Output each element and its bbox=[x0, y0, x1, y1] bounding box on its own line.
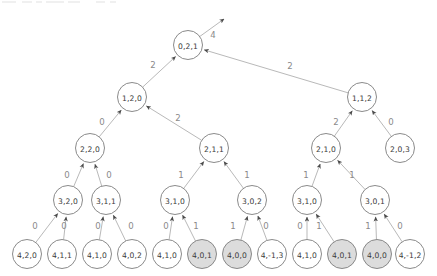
graph-edge bbox=[143, 57, 176, 88]
graph-edge bbox=[183, 215, 196, 241]
node-layer bbox=[13, 31, 425, 269]
graph-edge bbox=[334, 111, 352, 136]
graph-node[interactable] bbox=[200, 134, 229, 163]
graph-edge bbox=[74, 164, 84, 187]
graph-edge bbox=[372, 111, 391, 137]
graph-edge bbox=[64, 217, 67, 240]
graph-node[interactable] bbox=[161, 186, 190, 215]
graph-edge bbox=[36, 214, 58, 243]
graph-node[interactable] bbox=[174, 31, 203, 60]
graph-edge bbox=[376, 217, 377, 240]
graph-edge bbox=[258, 216, 267, 240]
graph-svg bbox=[0, 0, 437, 276]
graph-edge bbox=[99, 217, 103, 240]
figure-canvas: 42202200011110000011001100,2,11,2,01,1,2… bbox=[0, 0, 437, 276]
graph-node-shaded[interactable] bbox=[328, 240, 357, 269]
graph-edge bbox=[146, 106, 201, 140]
graph-node[interactable] bbox=[293, 186, 322, 215]
graph-node[interactable] bbox=[396, 240, 425, 269]
graph-node[interactable] bbox=[48, 240, 77, 269]
graph-node[interactable] bbox=[238, 186, 267, 215]
graph-edge bbox=[312, 164, 320, 186]
graph-edge bbox=[224, 162, 243, 189]
edge-layer bbox=[36, 19, 402, 242]
graph-edge bbox=[113, 215, 125, 241]
graph-edge bbox=[99, 110, 121, 137]
graph-node[interactable] bbox=[76, 134, 105, 163]
graph-edge bbox=[169, 217, 172, 240]
graph-node[interactable] bbox=[153, 240, 182, 269]
graph-node[interactable] bbox=[312, 134, 341, 163]
graph-node[interactable] bbox=[348, 83, 377, 112]
graph-node[interactable] bbox=[13, 240, 42, 269]
graph-node[interactable] bbox=[92, 186, 121, 215]
graph-node[interactable] bbox=[118, 240, 147, 269]
graph-edge bbox=[316, 214, 334, 242]
graph-edge bbox=[338, 160, 365, 189]
graph-edge bbox=[241, 216, 248, 240]
graph-node[interactable] bbox=[54, 186, 83, 215]
graph-node[interactable] bbox=[258, 240, 287, 269]
graph-node[interactable] bbox=[361, 186, 390, 215]
graph-node[interactable] bbox=[118, 83, 147, 112]
graph-edge bbox=[204, 50, 348, 93]
graph-node-shaded[interactable] bbox=[188, 240, 217, 269]
graph-node[interactable] bbox=[386, 134, 415, 163]
graph-node[interactable] bbox=[293, 240, 322, 269]
graph-edge bbox=[200, 19, 224, 37]
graph-edge bbox=[184, 162, 204, 189]
graph-edge bbox=[95, 164, 102, 186]
graph-node-shaded[interactable] bbox=[363, 240, 392, 269]
graph-node[interactable] bbox=[83, 240, 112, 269]
graph-node-shaded[interactable] bbox=[223, 240, 252, 269]
graph-edge bbox=[384, 214, 402, 242]
